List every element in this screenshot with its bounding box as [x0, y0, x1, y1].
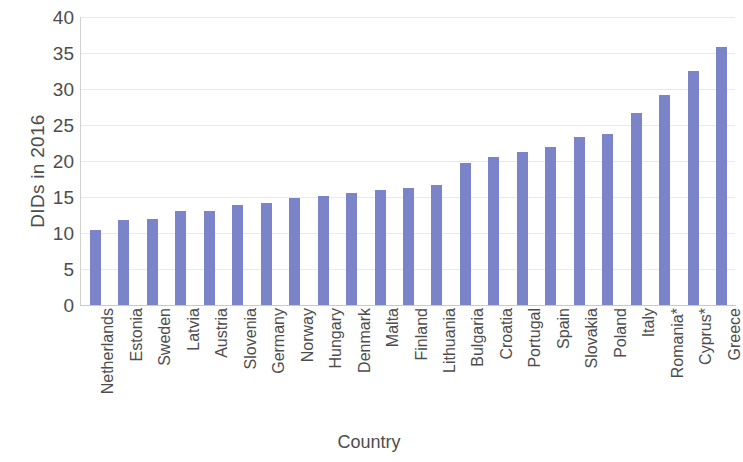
x-tick-label: Malta	[385, 308, 401, 347]
bar	[147, 219, 158, 305]
bar	[204, 211, 215, 305]
bar	[631, 113, 642, 305]
y-tick-label: 15	[53, 188, 74, 207]
x-tick-label: Croatia	[499, 308, 515, 360]
bar	[175, 211, 186, 305]
y-tick-label: 40	[53, 8, 74, 27]
x-tick-label: Denmark	[357, 308, 373, 373]
bar	[318, 196, 329, 305]
plot-area	[80, 17, 735, 305]
x-tick-label: Norway	[300, 308, 316, 362]
x-axis-line	[80, 305, 736, 306]
bar	[574, 137, 585, 305]
bar	[488, 157, 499, 305]
x-tick-label: Finland	[414, 308, 430, 360]
x-tick-label: Netherlands	[100, 308, 116, 394]
bar	[688, 71, 699, 305]
y-tick-label: 20	[53, 152, 74, 171]
y-tick-label: 35	[53, 44, 74, 63]
x-axis-title: Country	[0, 432, 738, 453]
x-tick-label: Spain	[556, 308, 572, 349]
bar	[517, 152, 528, 305]
y-tick-label: 30	[53, 80, 74, 99]
y-tick-label: 5	[63, 260, 74, 279]
x-tick-label: Austria	[214, 308, 230, 358]
bar-series	[81, 17, 735, 305]
y-tick-label: 25	[53, 116, 74, 135]
bar	[118, 220, 129, 305]
x-tick-label: Bulgaria	[470, 308, 486, 367]
bar	[716, 47, 727, 305]
x-tick-label: Latvia	[186, 308, 202, 351]
x-tick-label: Portugal	[527, 308, 543, 368]
bar	[261, 203, 272, 305]
y-tick-label: 0	[63, 296, 74, 315]
bar	[90, 230, 101, 305]
bar	[403, 188, 414, 305]
x-tick-label: Poland	[613, 308, 629, 358]
bar	[289, 198, 300, 305]
bar	[460, 163, 471, 305]
x-tick-label: Cyprus*	[698, 308, 714, 365]
bar	[232, 205, 243, 305]
x-tick-label: Germany	[271, 308, 287, 374]
x-tick-label: Sweden	[157, 308, 173, 366]
x-tick-label: Italy	[641, 308, 657, 337]
bar	[545, 147, 556, 305]
bar	[431, 185, 442, 305]
bar	[659, 95, 670, 305]
y-axis-tick-labels: 4035302520151050	[34, 0, 74, 462]
bar	[346, 193, 357, 305]
x-tick-label: Lithuania	[442, 308, 458, 373]
bar	[602, 134, 613, 305]
x-tick-label: Romania*	[670, 308, 686, 378]
x-tick-label: Slovenia	[243, 308, 259, 369]
x-tick-label: Hungary	[328, 308, 344, 368]
x-tick-label: Estonia	[129, 308, 145, 361]
x-tick-label: Greece	[727, 308, 743, 360]
bar	[375, 190, 386, 305]
x-tick-label: Slovakia	[584, 308, 600, 368]
x-axis-tick-labels: NetherlandsEstoniaSwedenLatviaAustriaSlo…	[80, 308, 735, 428]
y-tick-label: 10	[53, 224, 74, 243]
